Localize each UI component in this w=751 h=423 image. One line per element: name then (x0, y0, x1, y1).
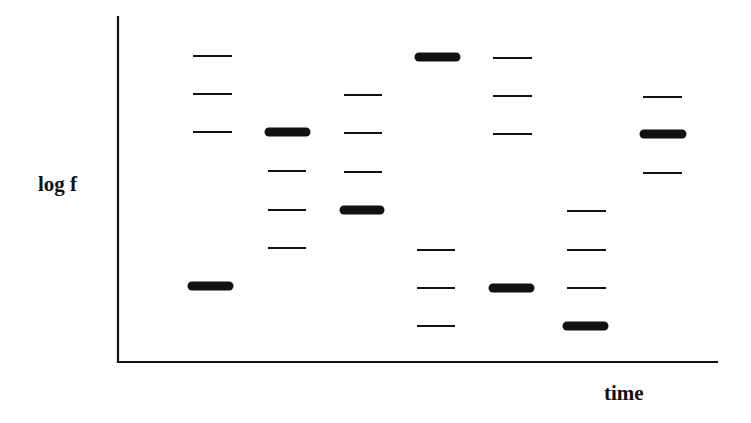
spectral-bands (192, 56, 682, 326)
y-axis-label: log f (38, 172, 77, 197)
band-column-2 (268, 132, 306, 248)
band-column-4 (417, 57, 456, 326)
band-column-3 (344, 95, 382, 210)
x-axis-label: time (604, 381, 644, 406)
axes (118, 17, 717, 362)
diagram-canvas (0, 0, 751, 423)
band-column-7 (643, 97, 682, 173)
band-column-5 (493, 58, 532, 288)
band-column-1 (192, 56, 232, 286)
band-column-6 (567, 211, 606, 326)
